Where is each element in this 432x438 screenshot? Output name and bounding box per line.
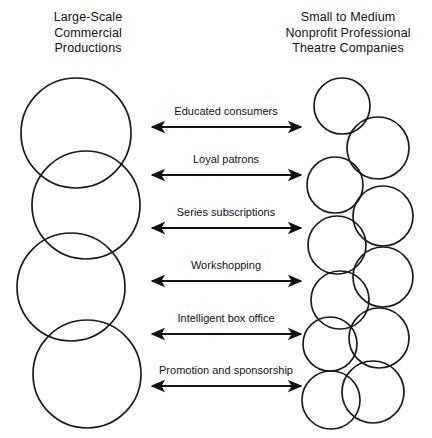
relationship-diagram: Large-Scale Commercial Productions Small… <box>0 0 432 438</box>
arrow-label-workshopping: Workshopping <box>126 259 326 272</box>
arrow-label-intelligent-box-office: Intelligent box office <box>126 312 326 325</box>
arrow-label-loyal-patrons: Loyal patrons <box>126 153 326 166</box>
arrow-label-educated-consumers: Educated consumers <box>126 105 326 118</box>
arrow-label-promotion-and-sponsorship: Promotion and sponsorship <box>126 364 326 377</box>
arrow-label-series-subscriptions: Series subscriptions <box>126 206 326 219</box>
